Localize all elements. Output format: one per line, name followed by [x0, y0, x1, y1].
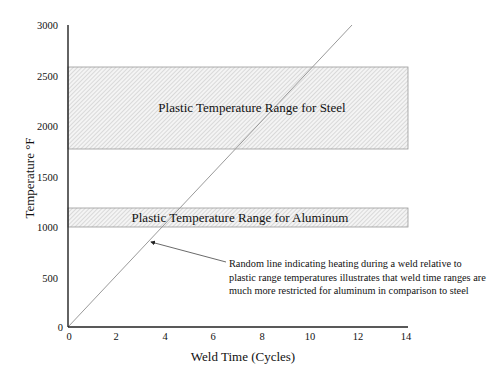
x-tick: 14	[401, 331, 412, 342]
annotation-arrow	[151, 242, 226, 262]
y-tick: 500	[42, 273, 58, 284]
steel-band-label: Plastic Temperature Range for Steel	[158, 100, 346, 115]
aluminum-band-label: Plastic Temperature Range for Aluminum	[132, 210, 349, 225]
x-tick: 6	[210, 331, 215, 342]
y-tick: 1500	[37, 172, 58, 183]
y-tick: 2500	[37, 71, 58, 82]
y-axis-label: Temperature °F	[22, 137, 37, 218]
annotation-text: Random line indicating heating during a …	[229, 257, 489, 298]
x-tick: 4	[162, 331, 168, 342]
y-tick: 1000	[37, 222, 58, 233]
x-axis-label: Weld Time (Cycles)	[191, 349, 295, 364]
y-tick: 2000	[37, 121, 58, 132]
x-tick: 12	[353, 331, 364, 342]
x-tick: 10	[305, 331, 316, 342]
y-tick: 0	[58, 322, 63, 333]
y-tick: 3000	[37, 20, 58, 31]
x-tick: 8	[259, 331, 264, 342]
x-tick: 2	[113, 331, 118, 342]
x-tick: 0	[66, 331, 71, 342]
